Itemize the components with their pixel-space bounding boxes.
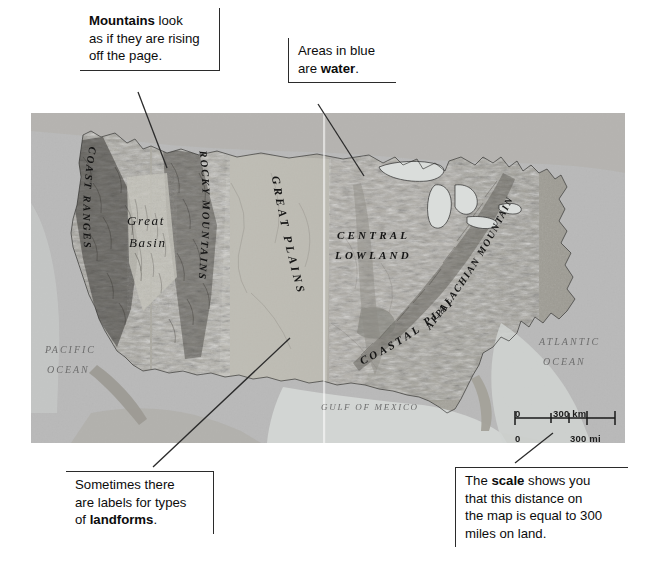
callout-water: Areas in blueare water. xyxy=(288,38,396,83)
map-label-central-lowland-line2: LOWLAND xyxy=(334,249,412,261)
callout-scale-line-3: the map is equal to 300 xyxy=(465,507,620,525)
callout-landforms: Sometimes thereare labels for typesof la… xyxy=(66,471,214,534)
map-label-atlantic-line2: OCEAN xyxy=(543,356,586,367)
callout-scale-line-2: that this distance on xyxy=(465,490,620,508)
map-scale-bar: 0 300 km 0 300 mi xyxy=(512,408,624,448)
callout-mountains: Mountains lookas if they are risingoff t… xyxy=(80,8,220,71)
callout-emphasis: Mountains xyxy=(89,13,155,28)
map-label-pacific-line1: PACIFIC xyxy=(44,344,96,355)
callout-water-line-1: Areas in blue xyxy=(298,42,388,60)
callout-mountains-line-2: as if they are rising xyxy=(89,30,211,48)
map-label-great-basin-line2: Basin xyxy=(129,235,167,250)
callout-mountains-line-3: off the page. xyxy=(89,47,211,65)
map-canvas: COAST RANGES Great Basin ROCKY MOUNTAINS… xyxy=(31,113,625,443)
map-label-atlantic-line1: ATLANTIC xyxy=(538,336,600,347)
scale-top-zero: 0 xyxy=(515,408,520,419)
relief-map: COAST RANGES Great Basin ROCKY MOUNTAINS… xyxy=(31,113,625,443)
scale-bottom-zero: 0 xyxy=(515,433,520,444)
callout-mountains-line-1: Mountains look xyxy=(89,12,211,30)
callout-landforms-line-2: are labels for types xyxy=(75,494,205,512)
callout-emphasis: scale xyxy=(491,473,524,488)
page-gutter-line xyxy=(323,113,325,443)
callout-landforms-line-3: of landforms. xyxy=(75,511,205,529)
scale-top-value: 300 km xyxy=(553,408,586,419)
callout-scale: The scale shows youthat this distance on… xyxy=(455,467,628,547)
callout-landforms-line-1: Sometimes there xyxy=(75,476,205,494)
scale-bottom-value: 300 mi xyxy=(570,433,601,444)
map-label-pacific-line2: OCEAN xyxy=(47,364,90,375)
callout-emphasis: landforms xyxy=(90,512,154,527)
callout-emphasis: water xyxy=(321,61,355,76)
map-label-great-basin-line1: Great xyxy=(127,213,165,228)
map-label-central-lowland-line1: CENTRAL xyxy=(337,229,410,241)
callout-scale-line-4: miles on land. xyxy=(465,525,620,543)
callout-water-line-2: are water. xyxy=(298,60,388,78)
map-label-gulf-of-mexico: GULF OF MEXICO xyxy=(321,402,419,412)
callout-scale-line-1: The scale shows you xyxy=(465,472,620,490)
